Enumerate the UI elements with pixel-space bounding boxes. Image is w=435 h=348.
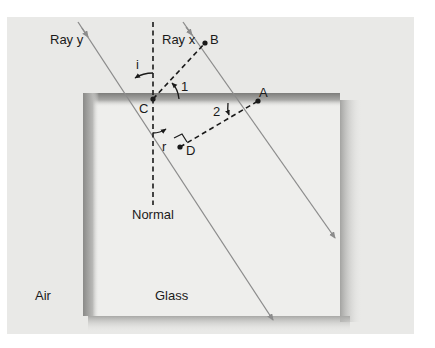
point-b-dot (202, 40, 207, 45)
label-point-d: D (186, 143, 195, 158)
label-ray-y: Ray y (50, 32, 84, 47)
label-ray-x: Ray x (162, 32, 196, 47)
label-point-a: A (259, 85, 268, 100)
glass-block (83, 93, 340, 316)
label-air: Air (35, 288, 52, 303)
glass-bottom-shadow (88, 316, 350, 332)
label-angle-i: i (136, 57, 139, 72)
label-angle-2: 2 (213, 104, 220, 119)
point-d-dot (177, 144, 182, 149)
label-point-c: C (139, 101, 148, 116)
glass-right-shadow (340, 100, 362, 322)
label-angle-1: 1 (181, 79, 188, 94)
label-angle-r: r (162, 139, 167, 154)
refraction-diagram: Ray y Ray x B C A D i r 1 2 Normal Air G… (0, 0, 435, 348)
point-c-dot (150, 96, 155, 101)
label-point-b: B (210, 32, 219, 47)
label-normal: Normal (132, 207, 174, 222)
label-glass: Glass (155, 288, 189, 303)
